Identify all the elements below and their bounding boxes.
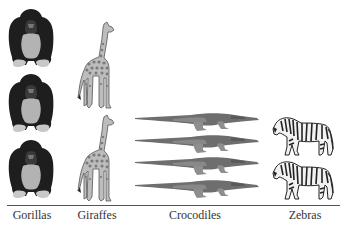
- giraffe-icon: [77, 20, 119, 110]
- category-label-crocodiles: Crocodiles: [160, 208, 230, 223]
- category-label-giraffes: Giraffes: [73, 208, 121, 223]
- gorilla-icon: [4, 7, 58, 69]
- giraffe-icon: [77, 113, 119, 203]
- crocodile-icon: [133, 154, 261, 176]
- gorilla-icon: [4, 138, 58, 200]
- zebra-icon: [271, 159, 335, 201]
- crocodile-icon: [133, 132, 261, 154]
- pictograph-chart: Gorillas Giraffes Crocodiles Zebras: [0, 0, 354, 230]
- crocodile-icon: [133, 177, 261, 199]
- category-label-gorillas: Gorillas: [8, 208, 56, 223]
- zebra-icon: [271, 115, 335, 157]
- crocodile-icon: [133, 110, 261, 132]
- gorilla-icon: [4, 72, 58, 134]
- category-label-zebras: Zebras: [280, 208, 330, 223]
- x-axis-baseline: [7, 205, 340, 206]
